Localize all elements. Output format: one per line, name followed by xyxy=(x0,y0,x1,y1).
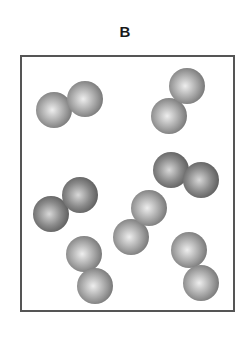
atom-sphere xyxy=(183,162,219,198)
atom-sphere xyxy=(66,236,102,272)
atom-sphere xyxy=(131,190,167,226)
molecule-5 xyxy=(113,190,167,255)
atom-sphere xyxy=(151,98,187,134)
molecule-7 xyxy=(171,232,219,301)
atom-sphere xyxy=(62,177,98,213)
atom-sphere xyxy=(171,232,207,268)
molecules xyxy=(33,68,219,304)
atom-sphere xyxy=(67,81,103,117)
molecule-2 xyxy=(151,68,205,134)
atom-sphere xyxy=(36,92,72,128)
molecule-4 xyxy=(33,177,98,232)
atom-sphere xyxy=(169,68,205,104)
atom-sphere xyxy=(77,268,113,304)
molecule-1 xyxy=(36,81,103,128)
atom-sphere xyxy=(183,265,219,301)
molecule-6 xyxy=(66,236,113,304)
molecule-3 xyxy=(153,152,219,198)
particles-layer xyxy=(0,0,245,338)
